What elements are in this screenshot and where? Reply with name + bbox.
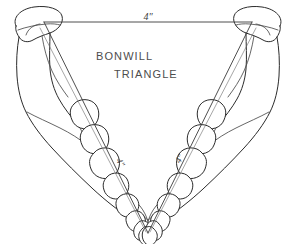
- mandible-diagram-svg: 4" 4" 4" BONWILL TRIANGLE: [0, 0, 296, 244]
- dimension-label-top: 4": [143, 11, 153, 22]
- triangle-right-edge-ghost: [150, 28, 256, 232]
- right-condyle-group: [234, 6, 281, 41]
- left-condyle-group: [15, 6, 62, 41]
- left-condyle-neck-crease: [18, 24, 60, 30]
- figure-title-line-2: TRIANGLE: [114, 68, 178, 80]
- figure-title-line-1: BONWILL: [96, 50, 153, 62]
- bonwill-triangle-figure: 4" 4" 4" BONWILL TRIANGLE: [0, 0, 296, 244]
- right-condyle-neck-crease: [236, 24, 278, 30]
